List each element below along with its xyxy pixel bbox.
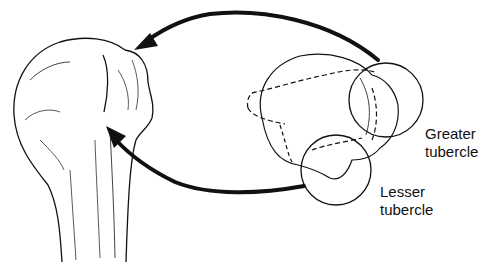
greater-tubercle-label: Greater tubercle: [425, 125, 478, 161]
humerus-head-drawing: [14, 38, 153, 262]
lesser-tubercle-circle: [301, 135, 371, 205]
greater-tubercle-circle: [349, 63, 423, 137]
humeral-head-top-view-drawing: [247, 54, 398, 179]
lesser-tubercle-label-line2: tubercle: [380, 201, 433, 219]
greater-tubercle-label-line1: Greater: [425, 125, 478, 143]
lesser-tubercle-label-line1: Lesser: [380, 183, 433, 201]
illustration: [0, 0, 498, 266]
arrow-to-lesser-tubercle: [116, 140, 304, 192]
arrows: [116, 13, 378, 193]
humerus-tubercles-diagram: Greater tubercle Lesser tubercle: [0, 0, 498, 266]
lesser-tubercle-label: Lesser tubercle: [380, 183, 433, 219]
greater-tubercle-label-line2: tubercle: [425, 143, 478, 161]
arrow-to-greater-tubercle: [148, 13, 378, 60]
